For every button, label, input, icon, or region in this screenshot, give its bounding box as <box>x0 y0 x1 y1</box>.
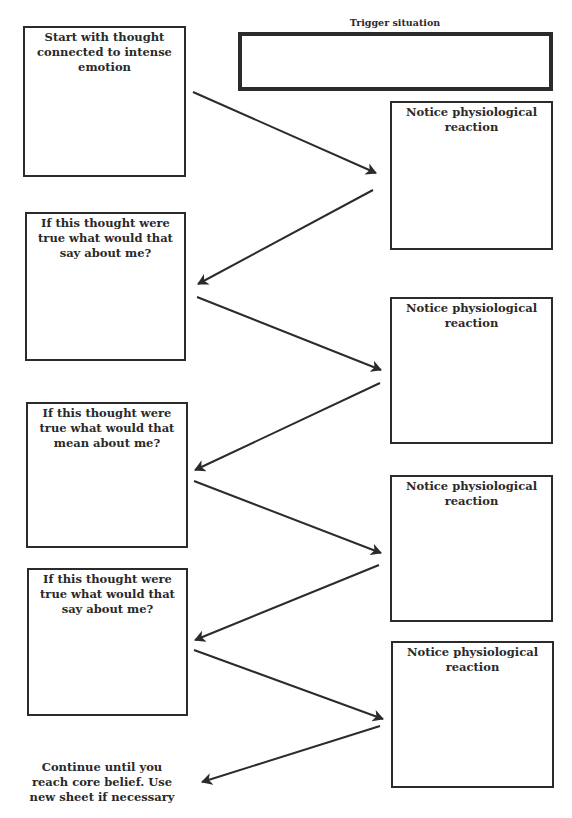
arrow-left-3-icon <box>195 565 379 640</box>
thought-box-2-label: If this thought were true what would tha… <box>27 214 184 261</box>
continue-instruction: Continue until you reach core belief. Us… <box>22 760 182 805</box>
thought-box-start[interactable]: Start with thought connected to intense … <box>23 26 186 177</box>
arrow-left-4-icon <box>202 726 380 782</box>
thought-box-3[interactable]: If this thought were true what would tha… <box>26 402 188 548</box>
arrow-left-1-icon <box>198 190 373 284</box>
reaction-box-2-label: Notice physiological reaction <box>392 299 551 331</box>
reaction-box-4-label: Notice physiological reaction <box>393 643 552 675</box>
trigger-situation-label: Trigger situation <box>238 17 552 29</box>
thought-box-3-label: If this thought were true what would tha… <box>28 404 186 451</box>
thought-box-start-label: Start with thought connected to intense … <box>25 28 184 75</box>
reaction-box-3[interactable]: Notice physiological reaction <box>390 475 553 622</box>
arrow-right-4-icon <box>194 650 383 719</box>
reaction-box-4[interactable]: Notice physiological reaction <box>391 641 554 788</box>
arrow-right-3-icon <box>194 481 381 553</box>
reaction-box-3-label: Notice physiological reaction <box>392 477 551 509</box>
arrow-right-2-icon <box>197 297 381 370</box>
arrow-left-2-icon <box>195 383 380 470</box>
thought-box-4[interactable]: If this thought were true what would tha… <box>27 568 188 716</box>
thought-box-4-label: If this thought were true what would tha… <box>29 570 186 617</box>
reaction-box-1[interactable]: Notice physiological reaction <box>390 101 553 250</box>
trigger-situation-field[interactable] <box>238 32 553 91</box>
arrow-right-1-icon <box>193 92 376 173</box>
reaction-box-1-label: Notice physiological reaction <box>392 103 551 135</box>
thought-box-2[interactable]: If this thought were true what would tha… <box>25 212 186 361</box>
reaction-box-2[interactable]: Notice physiological reaction <box>390 297 553 444</box>
